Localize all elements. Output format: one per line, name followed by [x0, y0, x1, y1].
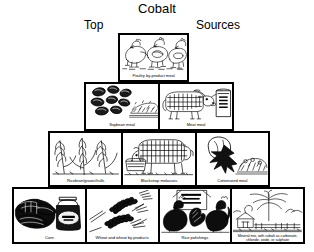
pyramid-cell-blackstrap-molasses[interactable]: Blackstrap molasses — [123, 133, 196, 185]
pyramid-tier-4: Corn — [12, 187, 305, 244]
pyramid-cell-meat-meal[interactable]: Meat meal — [160, 84, 232, 129]
pyramid-cell-wheat-and-wheat-by-products[interactable]: Wheat and wheat by-products — [87, 189, 160, 242]
cell-caption: Cottonseed meal — [197, 179, 268, 184]
corn-and-jar-illustration — [14, 189, 85, 233]
pyramid-cell-mineral-mix[interactable]: Mineral mix, with cobalt as carbonate, c… — [232, 189, 303, 242]
wheat-ears-illustration — [87, 189, 158, 233]
cell-caption: Blackstrap molasses — [123, 179, 194, 184]
cell-caption: Soybean meal — [86, 123, 158, 128]
cell-caption: Wheat and wheat by-products — [87, 236, 158, 241]
pyramid-cell-ricebran-groats-hulls[interactable]: Ricebran/groats/hulls — [50, 133, 123, 185]
cow-and-feed-bag-illustration — [160, 84, 232, 120]
cell-caption: Rice polishings — [160, 236, 231, 241]
pyramid-cell-corn[interactable]: Corn — [14, 189, 87, 242]
cell-caption: Meat meal — [160, 123, 232, 128]
pyramid-tier-2: Soybean meal — [84, 82, 234, 131]
pyramid-cell-poultry-by-product-meal[interactable]: Poultry by-product meal — [120, 35, 187, 80]
pyramid-tier-3: Ricebran/groats/hulls — [48, 131, 270, 187]
cell-caption: Mineral mix, with cobalt as carbonate, c… — [232, 234, 303, 242]
soybeans-illustration — [86, 84, 158, 120]
chickens-illustration — [160, 189, 231, 233]
poultry-illustration — [120, 35, 187, 71]
cell-caption: Ricebran/groats/hulls — [50, 179, 121, 184]
pyramid-cell-soybean-meal[interactable]: Soybean meal — [86, 84, 160, 129]
grain-stalks-illustration — [50, 133, 121, 176]
cell-caption: Corn — [14, 236, 85, 241]
cobalt-sources-pyramid: Poultry by-product meal — [0, 0, 314, 252]
mineral-mix-illustration — [232, 189, 303, 233]
pyramid-cell-cottonseed-meal[interactable]: Cottonseed meal — [197, 133, 268, 185]
cell-caption: Poultry by-product meal — [120, 74, 187, 79]
cotton-boll-illustration — [197, 133, 268, 176]
pyramid-cell-rice-polishings[interactable]: Rice polishings — [160, 189, 233, 242]
pyramid-tier-1: Poultry by-product meal — [118, 33, 189, 82]
cow-at-trough-illustration — [123, 133, 194, 176]
